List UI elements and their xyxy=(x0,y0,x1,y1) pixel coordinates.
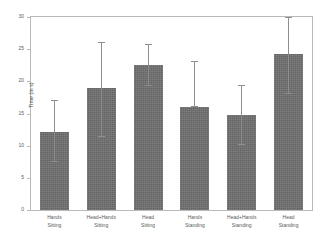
bar-group xyxy=(227,17,256,210)
error-bar-cap-lower xyxy=(98,136,105,137)
error-bar-cap-upper xyxy=(191,61,198,62)
bar xyxy=(180,107,209,210)
error-bar xyxy=(194,62,195,107)
y-tick: 5 xyxy=(0,178,30,179)
plot-area xyxy=(31,17,312,210)
error-bar-cap-lower xyxy=(51,161,58,162)
y-tick: 30 xyxy=(0,17,30,18)
error-bar xyxy=(288,18,289,94)
x-tick-label-line: Head xyxy=(125,214,172,222)
x-tick-label-line: Head+Hands xyxy=(78,214,125,222)
x-tick-label: Head+HandsStanding xyxy=(218,214,265,229)
error-bar-cap-lower xyxy=(145,85,152,86)
y-tick-mark xyxy=(27,210,30,211)
bar-chart-figure: Time (in s) 051015202530 HandsSittingHea… xyxy=(0,0,327,241)
error-bar-cap-upper xyxy=(285,17,292,18)
error-bar-cap-upper xyxy=(51,100,58,101)
error-bar-cap-lower xyxy=(285,93,292,94)
x-tick-label-line: Head xyxy=(265,214,312,222)
error-bar-cap-upper xyxy=(145,44,152,45)
y-tick: 20 xyxy=(0,81,30,82)
error-bar-cap-lower xyxy=(238,144,245,145)
y-tick-label: 10 xyxy=(18,142,24,148)
error-bar xyxy=(148,45,149,87)
error-bar-cap-lower xyxy=(191,106,198,107)
y-tick: 15 xyxy=(0,114,30,115)
x-tick-label: HeadStanding xyxy=(265,214,312,229)
x-tick-label-line: Sitting xyxy=(78,222,125,230)
y-tick-mark xyxy=(27,49,30,50)
x-tick-label-line: Standing xyxy=(265,222,312,230)
y-tick: 0 xyxy=(0,210,30,211)
y-tick-label: 5 xyxy=(21,174,24,180)
y-tick-mark xyxy=(27,146,30,147)
y-tick: 10 xyxy=(0,146,30,147)
x-tick-label-line: Standing xyxy=(172,222,219,230)
x-tick-label: HandsStanding xyxy=(172,214,219,229)
bar-group xyxy=(87,17,116,210)
x-tick-label-line: Head+Hands xyxy=(218,214,265,222)
x-tick-label-line: Standing xyxy=(218,222,265,230)
error-bar xyxy=(241,86,242,145)
x-tick-label: HeadSitting xyxy=(125,214,172,229)
y-tick-label: 25 xyxy=(18,45,24,51)
x-tick-label-line: Hands xyxy=(172,214,219,222)
bar-group xyxy=(134,17,163,210)
bar-group xyxy=(40,17,69,210)
error-bar-cap-upper xyxy=(98,42,105,43)
error-bar-cap-upper xyxy=(238,85,245,86)
y-tick-mark xyxy=(27,178,30,179)
y-tick-label: 20 xyxy=(18,77,24,83)
y-tick-mark xyxy=(27,81,30,82)
error-bar xyxy=(101,43,102,137)
x-tick-label-line: Hands xyxy=(31,214,78,222)
y-tick-label: 30 xyxy=(18,13,24,19)
error-bar xyxy=(54,101,55,161)
y-tick-label: 0 xyxy=(21,206,24,212)
x-tick-label-line: Sitting xyxy=(125,222,172,230)
bar-group xyxy=(180,17,209,210)
x-tick-label-line: Sitting xyxy=(31,222,78,230)
y-tick: 25 xyxy=(0,49,30,50)
y-tick-mark xyxy=(27,114,30,115)
x-tick-label: HandsSitting xyxy=(31,214,78,229)
y-tick-label: 15 xyxy=(18,110,24,116)
x-tick-label: Head+HandsSitting xyxy=(78,214,125,229)
bar-group xyxy=(274,17,303,210)
y-tick-mark xyxy=(27,17,30,18)
